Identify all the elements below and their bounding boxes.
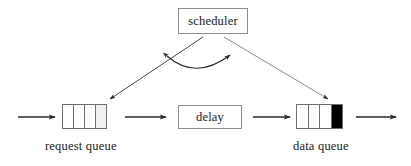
- queue-cell: [85, 105, 96, 128]
- delay-label: delay: [196, 110, 224, 125]
- queue-sync-arc: [167, 55, 230, 68]
- queue-cell: [309, 105, 321, 128]
- delay-node[interactable]: delay: [178, 105, 242, 129]
- data-queue-node[interactable]: [296, 104, 343, 129]
- queue-cell: [332, 105, 343, 128]
- data-queue-caption: data queue: [293, 139, 349, 154]
- queue-cell: [96, 105, 106, 128]
- scheduler-node[interactable]: scheduler: [178, 8, 248, 34]
- request-queue-node[interactable]: [62, 104, 107, 129]
- queue-cell: [320, 105, 332, 128]
- request-queue-caption: request queue: [45, 139, 117, 154]
- queue-cell: [74, 105, 85, 128]
- scheduler-to-data-queue-arrow: [224, 37, 328, 99]
- scheduler-label: scheduler: [188, 14, 238, 29]
- diagram-canvas: scheduler delay request queue data queue: [0, 0, 411, 166]
- queue-cell: [297, 105, 309, 128]
- queue-cell: [63, 105, 74, 128]
